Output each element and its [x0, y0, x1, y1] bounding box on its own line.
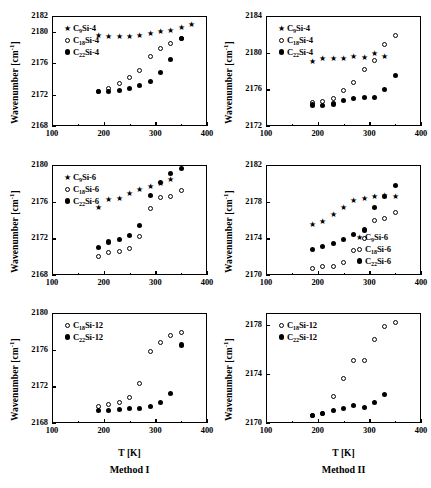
panel-top-right-point	[331, 101, 336, 106]
panel-bot-left-xtick: 400	[191, 426, 223, 435]
panel-top-right-point	[341, 88, 346, 93]
legend-marker-open-icon	[354, 245, 365, 254]
panel-bot-left-xtickmark	[104, 419, 105, 423]
panel-top-right-point: ★	[350, 53, 357, 60]
panel-mid-left-ytick: 2172	[16, 233, 48, 242]
legend-marker-filled-icon	[62, 333, 73, 342]
legend-entry: C18Si-6	[354, 243, 391, 255]
panel-mid-right-point: ★	[350, 197, 357, 204]
legend-marker-open-icon	[62, 185, 73, 194]
panel-top-right-xminortick	[395, 124, 396, 127]
panel-bot-left-point	[117, 400, 122, 405]
panel-top-left-point	[158, 46, 163, 51]
panel-bot-right-xtick: 200	[302, 426, 334, 435]
panel-bot-left-xminortick	[181, 421, 182, 424]
legend-entry: C22Si-12	[62, 331, 103, 343]
panel-top-right-xtickmark	[421, 122, 422, 126]
panel-bot-right-xminortick	[395, 421, 396, 424]
panel-mid-right-point	[393, 210, 398, 215]
panel-mid-left-xminortick	[130, 273, 131, 276]
legend-label: C22Si-12	[73, 332, 103, 342]
panel-bot-right-xtick: 300	[353, 426, 385, 435]
panel-mid-right-point	[382, 216, 387, 221]
legend-entry: C22Si-12	[276, 331, 317, 343]
panel-mid-left-xminortick	[78, 273, 79, 276]
panel-bot-left-ytick: 2176	[16, 345, 48, 354]
panel-bot-right-point	[372, 400, 377, 405]
panel-top-left-ytick: 2182	[16, 11, 48, 20]
panel-top-left-point: ★	[105, 33, 112, 40]
panel-top-left-point: ★	[126, 33, 133, 40]
panel-mid-left-point	[158, 180, 163, 185]
panel-top-left-point: ★	[147, 30, 154, 37]
panel-mid-left-point: ★	[136, 186, 143, 193]
panel-bot-right-ylabel: Wavenumber [cm-1]	[222, 338, 234, 421]
panel-top-right-point	[393, 33, 398, 38]
panel-mid-left-ytickmark	[52, 202, 56, 203]
panel-top-left-point: ★	[116, 33, 123, 40]
panel-bot-left-ytickmark	[52, 386, 56, 387]
panel-top-left-point	[117, 88, 122, 93]
panel-top-left-ytickmark	[52, 126, 56, 127]
panel-bot-right-xtick: 100	[250, 426, 282, 435]
panel-top-right-point: ★	[330, 55, 337, 62]
legend-entry: ★C9Si-6	[62, 171, 99, 183]
panel-bot-right-legend: C18Si-12C22Si-12	[276, 319, 317, 343]
panel-top-right-point: ★	[319, 55, 326, 62]
panel-bot-right-point	[362, 405, 367, 410]
panel-top-left-point	[96, 89, 101, 94]
panel-mid-right-xminortick	[395, 273, 396, 276]
legend-label: C9Si-6	[365, 232, 388, 242]
panel-bot-left-xtick: 100	[36, 426, 68, 435]
panel-mid-right-point	[372, 205, 377, 210]
panel-mid-right-ytickmark	[266, 165, 270, 166]
panel-mid-right-xtickmark	[266, 271, 267, 275]
panel-mid-right-frame	[266, 165, 421, 275]
panel-top-left-point	[137, 68, 142, 73]
panel-bot-left-ylabel: Wavenumber [cm-1]	[8, 338, 20, 421]
panel-mid-left-ytickmark	[52, 165, 56, 166]
panel-mid-left-point	[148, 193, 153, 198]
legend-label: C18Si-12	[73, 320, 103, 330]
panel-bot-left-xminortick	[78, 421, 79, 424]
panel-top-right-point: ★	[340, 55, 347, 62]
panel-mid-right-point: ★	[392, 193, 399, 200]
panel-bot-right-point	[341, 406, 346, 411]
panel-top-left-point	[127, 86, 132, 91]
panel-bot-left-point	[179, 342, 184, 347]
panel-bot-right-point	[362, 358, 367, 363]
panel-bot-left-ytickmark	[52, 423, 56, 424]
panel-mid-right-xtick: 100	[250, 278, 282, 287]
panel-mid-left-point: ★	[126, 190, 133, 197]
panel-mid-left-point	[168, 194, 173, 199]
legend-label: C9Si-4	[73, 23, 96, 33]
legend-label: C22Si-6	[73, 196, 99, 206]
panel-top-left-point: ★	[178, 24, 185, 31]
legend-label: C18Si-4	[73, 35, 99, 45]
panel-bot-left-xminortick	[130, 421, 131, 424]
panel-top-right-point	[331, 96, 336, 101]
panel-top-right-xtick: 100	[250, 129, 282, 138]
panel-top-right-point	[310, 102, 315, 107]
panel-bot-right-ytick: 2174	[230, 369, 262, 378]
panel-top-left-ytick: 2172	[16, 90, 48, 99]
panel-mid-right-legend: ★C9Si-6C18Si-6C22Si-6	[354, 231, 391, 267]
panel-mid-left-point	[127, 246, 132, 251]
panel-bot-left-point	[148, 349, 153, 354]
legend-entry: C18Si-4	[276, 34, 313, 46]
panel-bot-left-point	[148, 404, 153, 409]
panel-bot-right-xtickmark	[421, 419, 422, 423]
panel-top-left-xtickmark	[52, 122, 53, 126]
panel-top-right-xtick: 300	[353, 129, 385, 138]
panel-mid-right-point	[341, 237, 346, 242]
panel-bot-right-ytickmark	[266, 374, 270, 375]
panel-bot-left-xtickmark	[155, 419, 156, 423]
panel-bot-left-ytick: 2172	[16, 381, 48, 390]
panel-bot-left-ytickmark	[52, 350, 56, 351]
panel-mid-right-point	[310, 266, 315, 271]
panel-top-left-ytick: 2180	[16, 27, 48, 36]
panel-top-left-xtick: 400	[191, 129, 223, 138]
panel-top-right-xtick: 400	[405, 129, 431, 138]
panel-mid-left-xtick: 400	[191, 278, 223, 287]
legend-label: C18Si-12	[287, 320, 317, 330]
